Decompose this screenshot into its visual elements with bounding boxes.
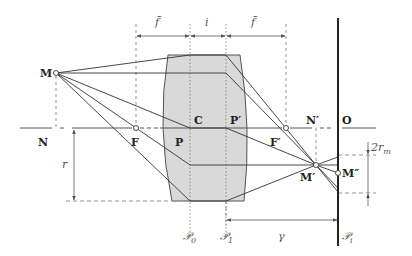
label-i: i [205,16,209,29]
optical-diagram: M N F P C P′ F′ N′ O M′ M″ f̄ i f̄ r γ 2… [0,0,412,256]
label-O: O [342,114,352,127]
label-F-prime: F′ [270,136,281,149]
label-N: N [38,136,48,149]
label-2rm-sub: m [383,147,391,156]
label-P: P [175,136,183,149]
label-P-prime: P′ [230,114,241,127]
label-f-right: f̄ [250,16,258,29]
label-N-prime: N′ [306,114,319,127]
label-C: C [194,114,203,127]
label-plane-Pi: 𝒫i [342,230,353,245]
label-M: M [40,67,52,80]
point-F-prime [284,126,289,131]
point-M-double-prime [336,171,341,176]
label-plane-P0: 𝒫0 [183,230,196,245]
label-M-double-prime: M″ [342,167,359,180]
label-2rm-main: 2r [370,141,384,154]
label-r: r [62,158,68,171]
label-f-left: f̄ [154,16,162,29]
point-M [54,71,59,76]
label-F: F [131,136,139,149]
label-plane-P1: 𝒫1 [220,230,233,245]
point-M-prime [314,163,319,168]
label-gamma: γ [278,230,285,243]
point-F [134,126,139,131]
label-2rm: 2rm [370,141,391,156]
label-M-prime: M′ [300,171,315,184]
